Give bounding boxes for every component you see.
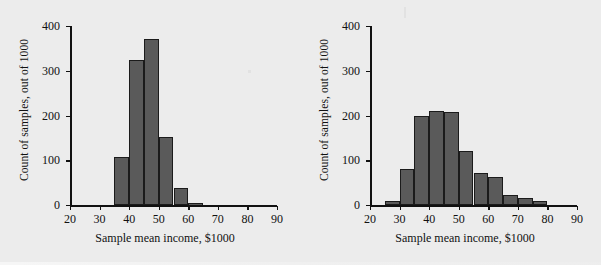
histogram-bar (414, 116, 429, 205)
left-x-tick (159, 206, 160, 210)
right-x-tick-label: 80 (541, 212, 553, 227)
left-y-tick-label: 100 (42, 153, 60, 168)
left-y-axis-line (70, 26, 72, 205)
left-y-tick: 300 (66, 71, 70, 72)
histogram-bar (188, 203, 203, 205)
histogram-bar (533, 201, 548, 205)
histogram-bar (385, 201, 400, 205)
histogram-bar (459, 151, 474, 205)
left-x-tick-label: 30 (94, 212, 106, 227)
right-x-tick (400, 206, 401, 210)
histogram-bar (429, 111, 444, 205)
right-x-tick-label: 90 (571, 212, 583, 227)
right-y-tick-label: 400 (342, 19, 360, 34)
left-x-tick-label: 50 (153, 212, 165, 227)
left-y-tick-label: 300 (42, 63, 60, 78)
left-histogram-panel: Count of samples, out of 1000 Sample mea… (0, 0, 300, 265)
histogram-pair: Count of samples, out of 1000 Sample mea… (0, 0, 601, 265)
left-x-tick (100, 206, 101, 210)
histogram-bar (144, 39, 159, 205)
right-y-tick: 200 (366, 116, 370, 117)
histogram-bar (518, 198, 533, 205)
figure-page: Count of samples, out of 1000 Sample mea… (0, 0, 601, 265)
left-x-tick (188, 206, 189, 210)
left-x-tick (247, 206, 248, 210)
right-y-tick: 300 (366, 71, 370, 72)
left-y-tick: 400 (66, 26, 70, 27)
right-y-axis-line (370, 26, 372, 205)
left-x-tick (129, 206, 130, 210)
right-x-tick-label: 30 (394, 212, 406, 227)
histogram-bar (114, 157, 129, 205)
histogram-bar (488, 177, 503, 205)
right-x-tick-label: 70 (512, 212, 524, 227)
left-x-axis-line (70, 205, 277, 207)
right-x-tick (547, 206, 548, 210)
right-x-tick (488, 206, 489, 210)
left-y-tick: 200 (66, 116, 70, 117)
left-x-tick-label: 80 (241, 212, 253, 227)
left-y-tick-label: 0 (54, 198, 60, 213)
left-x-tick-label: 90 (271, 212, 283, 227)
right-y-tick-label: 100 (342, 153, 360, 168)
right-x-tick-label: 60 (482, 212, 494, 227)
histogram-bar (159, 137, 174, 205)
right-y-tick-label: 300 (342, 63, 360, 78)
left-x-tick-label: 40 (123, 212, 135, 227)
right-x-tick (429, 206, 430, 210)
right-x-tick (459, 206, 460, 210)
left-x-tick (70, 206, 71, 210)
right-x-tick-label: 40 (423, 212, 435, 227)
left-x-tick (218, 206, 219, 210)
right-y-tick-label: 200 (342, 108, 360, 123)
right-x-tick (518, 206, 519, 210)
scan-speck-artifact (404, 7, 406, 18)
histogram-bar (444, 112, 459, 205)
right-y-axis-title: Count of samples, out of 1000 (318, 15, 330, 205)
right-x-axis-line (370, 205, 577, 207)
histogram-bar (503, 195, 518, 205)
right-x-tick (370, 206, 371, 210)
left-y-tick: 100 (66, 160, 70, 161)
right-x-tick (577, 206, 578, 210)
histogram-bar (174, 188, 189, 205)
left-x-tick (277, 206, 278, 210)
left-x-axis-title: Sample mean income, $1000 (40, 231, 290, 246)
left-x-tick-label: 60 (182, 212, 194, 227)
left-x-tick-label: 70 (212, 212, 224, 227)
right-y-tick: 400 (366, 26, 370, 27)
histogram-bar (474, 173, 489, 205)
right-x-tick-label: 20 (364, 212, 376, 227)
scan-speck-artifact (248, 70, 251, 73)
left-y-tick-label: 400 (42, 19, 60, 34)
left-x-tick-label: 20 (64, 212, 76, 227)
left-y-tick-label: 200 (42, 108, 60, 123)
left-y-axis-title: Count of samples, out of 1000 (18, 15, 30, 205)
right-y-tick: 100 (366, 160, 370, 161)
right-x-axis-title: Sample mean income, $1000 (340, 231, 590, 246)
left-plot-area: 01002003004002030405060708090 (70, 26, 277, 205)
histogram-bar (400, 169, 415, 205)
right-x-tick-label: 50 (453, 212, 465, 227)
histogram-bar (129, 60, 144, 205)
right-plot-area: 01002003004002030405060708090 (370, 26, 577, 205)
right-y-tick-label: 0 (354, 198, 360, 213)
right-histogram-panel: Count of samples, out of 1000 Sample mea… (300, 0, 601, 265)
